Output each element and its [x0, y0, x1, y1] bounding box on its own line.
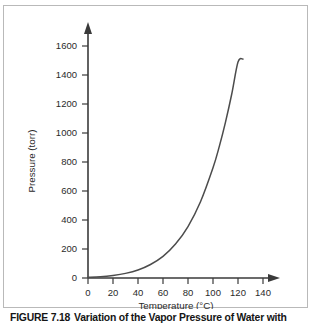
- pressure-axis: 0 200 400 600 800 1000 1200 1400 1600 Pr…: [26, 22, 92, 283]
- figure-number: FIGURE 7.18: [10, 312, 70, 323]
- x-tick-label-0: 0: [85, 287, 90, 298]
- x-axis-arrow-icon: [268, 274, 280, 282]
- x-tick-label-40: 40: [133, 287, 144, 298]
- y-tick-label-1400: 1400: [56, 69, 77, 80]
- y-tick-label-1600: 1600: [56, 40, 77, 51]
- figure-caption: FIGURE 7.18Variation of the Vapor Pressu…: [10, 312, 310, 323]
- y-axis-arrow-icon: [84, 22, 92, 34]
- y-tick-label-0: 0: [72, 272, 77, 283]
- x-axis-title: Temperature (°C): [138, 300, 213, 309]
- temperature-axis: 0 20 40 60 80 100 120 140 Temperature (°…: [85, 274, 280, 309]
- vapor-pressure-chart: 0 200 400 600 800 1000 1200 1400 1600 Pr…: [4, 6, 309, 309]
- figure-frame: 0 200 400 600 800 1000 1200 1400 1600 Pr…: [3, 5, 308, 308]
- x-tick-label-20: 20: [108, 287, 119, 298]
- y-tick-label-1200: 1200: [56, 98, 77, 109]
- y-axis-title: Pressure (torr): [26, 129, 37, 192]
- vapor-pressure-curve: [88, 59, 243, 278]
- y-tick-label-200: 200: [61, 243, 77, 254]
- x-tick-label-100: 100: [205, 287, 221, 298]
- y-tick-label-1000: 1000: [56, 127, 77, 138]
- x-tick-label-140: 140: [255, 287, 271, 298]
- x-tick-label-120: 120: [230, 287, 246, 298]
- x-tick-label-80: 80: [183, 287, 194, 298]
- y-tick-label-600: 600: [61, 185, 77, 196]
- y-tick-label-800: 800: [61, 156, 77, 167]
- figure-caption-text: Variation of the Vapor Pressure of Water…: [74, 312, 287, 323]
- x-tick-label-60: 60: [158, 287, 169, 298]
- y-tick-label-400: 400: [61, 214, 77, 225]
- figure-page: 0 200 400 600 800 1000 1200 1400 1600 Pr…: [0, 0, 318, 333]
